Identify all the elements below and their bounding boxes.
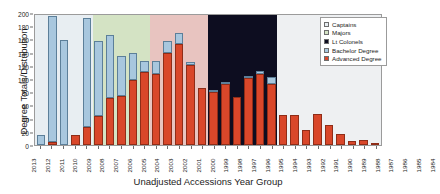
stacked-bar[interactable] xyxy=(325,125,334,145)
bar-column[interactable] xyxy=(289,15,301,145)
bar-column[interactable] xyxy=(70,15,82,145)
bar-segment-bachelor-degree xyxy=(175,33,184,44)
bar-column[interactable] xyxy=(58,15,70,145)
bar-column[interactable] xyxy=(208,15,220,145)
legend-item-label: Lt Colonels xyxy=(332,38,363,45)
x-axis-title: Unadjusted Accessions Year Group xyxy=(34,176,382,187)
bar-column[interactable] xyxy=(81,15,93,145)
bar-segment-advanced-degree xyxy=(163,53,172,145)
stacked-bar[interactable] xyxy=(209,90,218,145)
bar-column[interactable] xyxy=(93,15,105,145)
stacked-bar[interactable] xyxy=(302,130,311,145)
stacked-bar[interactable] xyxy=(371,143,380,145)
bar-column[interactable] xyxy=(196,15,208,145)
bar-column[interactable] xyxy=(35,15,47,145)
stacked-bar[interactable] xyxy=(106,35,115,145)
stacked-bar[interactable] xyxy=(175,33,184,145)
stacked-bar[interactable] xyxy=(198,88,207,145)
y-axis-tick-label: 200 xyxy=(0,11,29,18)
stacked-bar[interactable] xyxy=(152,61,161,145)
bar-segment-advanced-degree xyxy=(209,92,218,145)
bar-column[interactable] xyxy=(277,15,289,145)
stacked-bar[interactable] xyxy=(163,41,172,145)
stacked-bar[interactable] xyxy=(244,76,253,145)
bar-segment-bachelor-degree xyxy=(106,35,115,98)
stacked-bar[interactable] xyxy=(256,71,265,145)
y-axis-tick-label: 160 xyxy=(0,37,29,44)
bar-segment-advanced-degree xyxy=(175,44,184,145)
stacked-bar[interactable] xyxy=(233,97,242,145)
bar-segment-advanced-degree xyxy=(198,88,207,145)
legend-item[interactable]: Majors xyxy=(324,29,382,38)
bar-column[interactable] xyxy=(243,15,255,145)
legend-item[interactable]: Captains xyxy=(324,20,382,29)
bar-column[interactable] xyxy=(127,15,139,145)
stacked-bar[interactable] xyxy=(359,140,368,145)
y-axis-tick-mark xyxy=(30,132,33,133)
bar-column[interactable] xyxy=(173,15,185,145)
bar-segment-advanced-degree xyxy=(267,84,276,145)
legend-item[interactable]: Lt Colonels xyxy=(324,37,382,46)
bar-column[interactable] xyxy=(104,15,116,145)
stacked-bar[interactable] xyxy=(290,115,299,145)
bar-column[interactable] xyxy=(116,15,128,145)
bar-column[interactable] xyxy=(47,15,59,145)
bar-column[interactable] xyxy=(185,15,197,145)
legend-item-label: Captains xyxy=(332,21,356,28)
bar-column[interactable] xyxy=(300,15,312,145)
bar-segment-bachelor-degree xyxy=(129,53,138,81)
stacked-bar[interactable] xyxy=(186,62,195,145)
y-axis-tick-label: 100 xyxy=(0,77,29,84)
bar-column[interactable] xyxy=(254,15,266,145)
x-axis-tick-labels: 2013201220112010200920082007200620052004… xyxy=(34,148,382,176)
legend-swatch-icon xyxy=(324,39,329,44)
bar-column[interactable] xyxy=(150,15,162,145)
stacked-bar[interactable] xyxy=(37,135,46,145)
bar-segment-advanced-degree xyxy=(48,142,57,145)
y-axis-tick-label: 80 xyxy=(0,90,29,97)
legend-item[interactable]: Advanced Degree xyxy=(324,54,382,63)
bar-column[interactable] xyxy=(162,15,174,145)
bar-segment-advanced-degree xyxy=(348,141,357,145)
stacked-bar[interactable] xyxy=(267,77,276,145)
bar-segment-bachelor-degree xyxy=(48,16,57,141)
stacked-bar[interactable] xyxy=(83,18,92,145)
stacked-bar[interactable] xyxy=(348,141,357,145)
stacked-bar[interactable] xyxy=(48,16,57,145)
bar-column[interactable] xyxy=(231,15,243,145)
bar-segment-bachelor-degree xyxy=(94,41,103,116)
stacked-bar[interactable] xyxy=(221,82,230,145)
bar-segment-advanced-degree xyxy=(106,98,115,145)
bar-segment-advanced-degree xyxy=(140,72,149,145)
bar-segment-advanced-degree xyxy=(71,135,80,145)
stacked-bar[interactable] xyxy=(313,114,322,145)
bar-segment-advanced-degree xyxy=(371,143,380,145)
bar-segment-advanced-degree xyxy=(279,115,288,145)
stacked-bar[interactable] xyxy=(60,40,69,145)
stacked-bar[interactable] xyxy=(140,61,149,145)
bar-segment-advanced-degree xyxy=(336,134,345,145)
y-axis-tick-label: 0 xyxy=(0,143,29,150)
stacked-bar[interactable] xyxy=(94,41,103,145)
y-axis-tick-label: 180 xyxy=(0,24,29,31)
stacked-bar[interactable] xyxy=(129,53,138,145)
chart-legend: CaptainsMajorsLt ColonelsBachelor Degree… xyxy=(320,17,387,66)
bar-column[interactable] xyxy=(139,15,151,145)
stacked-bar[interactable] xyxy=(336,134,345,145)
y-axis-tick-mark xyxy=(30,14,33,15)
legend-swatch-icon xyxy=(324,56,329,61)
bar-column[interactable] xyxy=(220,15,232,145)
stacked-bar[interactable] xyxy=(117,56,126,145)
legend-item-label: Majors xyxy=(332,29,351,36)
stacked-bar[interactable] xyxy=(279,115,288,145)
x-axis-tick-label: 1984 xyxy=(429,159,440,173)
bar-column[interactable] xyxy=(266,15,278,145)
legend-item[interactable]: Bachelor Degree xyxy=(324,46,382,55)
legend-item-label: Advanced Degree xyxy=(332,55,382,62)
y-axis-tick-mark xyxy=(30,27,33,28)
y-axis-tick-label: 140 xyxy=(0,50,29,57)
legend-item-label: Bachelor Degree xyxy=(332,47,378,54)
stacked-bar[interactable] xyxy=(71,135,80,145)
bar-segment-advanced-degree xyxy=(152,74,161,145)
y-axis-tick-mark xyxy=(30,66,33,67)
